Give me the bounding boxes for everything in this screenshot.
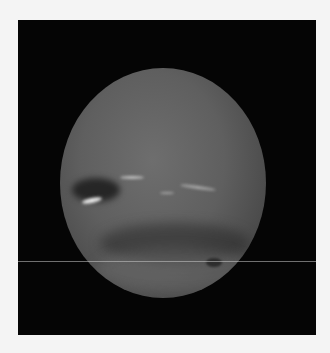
light-band: [95, 248, 255, 293]
image-frame: [18, 20, 316, 335]
cloud-streak: [120, 176, 144, 179]
neptune-planet: [60, 68, 266, 298]
cloud-streak: [180, 184, 216, 192]
cloud-streak: [160, 192, 174, 194]
small-dark-spot: [206, 258, 222, 267]
scan-line-artifact: [18, 261, 316, 262]
